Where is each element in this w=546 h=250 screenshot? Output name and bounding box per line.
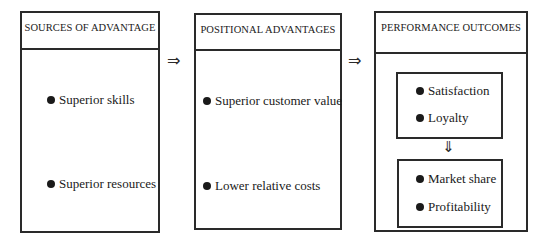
down-double-arrow-icon: ⇓ xyxy=(442,139,455,155)
right-double-arrow-icon: ⇒ xyxy=(348,53,361,69)
bullet-icon xyxy=(416,87,424,95)
item-label: Superior skills xyxy=(59,92,134,108)
item-label: Market share xyxy=(428,171,496,187)
bullet-icon xyxy=(203,97,211,105)
list-item: Lower relative costs xyxy=(203,178,320,194)
list-item: Superior customer value xyxy=(203,93,342,109)
bullet-icon xyxy=(47,96,55,104)
item-label: Lower relative costs xyxy=(215,178,320,194)
list-item: Loyalty xyxy=(416,110,468,126)
bullet-icon xyxy=(416,114,424,122)
item-label: Profitability xyxy=(428,199,491,215)
list-item: Superior resources xyxy=(47,176,156,192)
positional-advantages-box: POSITIONAL ADVANTAGES Superior customer … xyxy=(194,13,342,230)
bullet-icon xyxy=(416,175,424,183)
bullet-icon xyxy=(47,180,55,188)
bullet-icon xyxy=(416,203,424,211)
bullet-icon xyxy=(203,182,211,190)
customer-outcomes-box: Satisfaction Loyalty xyxy=(396,72,503,139)
positional-advantages-header: POSITIONAL ADVANTAGES xyxy=(196,15,340,51)
item-label: Loyalty xyxy=(428,110,468,126)
performance-outcomes-box: PERFORMANCE OUTCOMES Satisfaction Loyalt… xyxy=(374,11,528,232)
performance-outcomes-title: PERFORMANCE OUTCOMES xyxy=(381,22,521,33)
performance-outcomes-header: PERFORMANCE OUTCOMES xyxy=(376,13,526,54)
right-double-arrow-icon: ⇒ xyxy=(167,53,180,69)
sources-of-advantage-header: SOURCES OF ADVANTAGE xyxy=(22,13,158,50)
sources-of-advantage-box: SOURCES OF ADVANTAGE Superior skills Sup… xyxy=(20,11,160,233)
list-item: Superior skills xyxy=(47,92,134,108)
positional-advantages-title: POSITIONAL ADVANTAGES xyxy=(200,24,335,35)
list-item: Profitability xyxy=(416,199,491,215)
financial-outcomes-box: Market share Profitability xyxy=(397,159,503,228)
item-label: Satisfaction xyxy=(428,83,489,99)
item-label: Superior customer value xyxy=(215,93,342,109)
item-label: Superior resources xyxy=(59,176,156,192)
list-item: Market share xyxy=(416,171,496,187)
list-item: Satisfaction xyxy=(416,83,489,99)
sources-of-advantage-title: SOURCES OF ADVANTAGE xyxy=(24,22,155,33)
